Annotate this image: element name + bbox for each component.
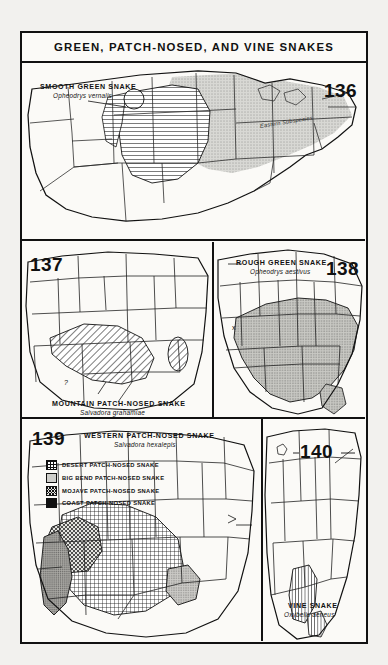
map-140-number: 140	[300, 441, 333, 463]
legend-item-mojave[interactable]: MOJAVE PATCH-NOSED SNAKE	[46, 485, 164, 496]
map-panel-137[interactable]: ? MOUNTAIN PATCH-NOSED SNAKE Salvadora g…	[22, 242, 214, 419]
map-139-common-name: WESTERN PATCH-NOSED SNAKE	[84, 432, 215, 440]
label-leader-137	[98, 382, 106, 394]
map-140-scientific-name: Oxybelis aeneus	[284, 611, 335, 618]
plate-page: GREEN, PATCH-NOSED, AND VINE SNAKES	[0, 0, 388, 665]
map-panel-139[interactable]: WESTERN PATCH-NOSED SNAKE Salvadora hexa…	[22, 419, 263, 642]
legend-label-desert: DESERT PATCH-NOSED SNAKE	[62, 462, 159, 468]
map-139-number: 139	[32, 428, 65, 450]
map-140-common-name: VINE SNAKE	[288, 602, 338, 610]
map-138-scientific-name: Opheodrys aestivus	[250, 268, 310, 275]
map-136-common-name: SMOOTH GREEN SNAKE	[40, 83, 136, 91]
legend-label-big-bend: BIG BEND PATCH-NOSED SNAKE	[62, 475, 164, 481]
legend-swatch-coast-icon	[46, 498, 57, 508]
map-139-legend: DESERT PATCH-NOSED SNAKE BIG BEND PATCH-…	[46, 460, 164, 511]
map-139-graphic	[22, 419, 263, 642]
map-137-scientific-name: Salvadora grahamiae	[80, 409, 145, 416]
plate-title-bar: GREEN, PATCH-NOSED, AND VINE SNAKES	[22, 33, 366, 63]
map-137-query-mark: ?	[64, 379, 68, 386]
range-bigbend-139	[166, 565, 200, 605]
map-138-number: 138	[326, 258, 359, 280]
legend-item-big-bend[interactable]: BIG BEND PATCH-NOSED SNAKE	[46, 472, 164, 483]
map-138-common-name: ROUGH GREEN SNAKE	[236, 259, 327, 267]
legend-swatch-mojave-icon	[46, 486, 57, 496]
map-panel-136[interactable]: SMOOTH GREEN SNAKE Opheodrys vernalis Ea…	[22, 63, 365, 241]
legend-item-desert[interactable]: DESERT PATCH-NOSED SNAKE	[46, 460, 164, 471]
legend-swatch-desert-icon	[46, 460, 57, 470]
range-hatch-isolate	[124, 89, 144, 109]
legend-label-coast: COAST PATCH-NOSED SNAKE	[62, 500, 155, 506]
map-138-x-mark: x	[232, 324, 236, 331]
map-136-scientific-name: Opheodrys vernalis	[53, 92, 112, 99]
legend-swatch-big-bend-icon	[46, 473, 57, 483]
plate-title: GREEN, PATCH-NOSED, AND VINE SNAKES	[54, 41, 334, 53]
map-137-number: 137	[30, 254, 63, 276]
state-glyph-140	[277, 444, 287, 455]
map-plate: GREEN, PATCH-NOSED, AND VINE SNAKES	[20, 31, 368, 644]
leader-arrow-139	[228, 515, 236, 523]
map-137-common-name: MOUNTAIN PATCH-NOSED SNAKE	[52, 400, 186, 408]
map-136-number: 136	[324, 80, 357, 102]
map-139-scientific-name: Salvadora hexalepis	[114, 441, 176, 448]
range-stipple-138-fl	[320, 384, 346, 414]
legend-label-mojave: MOJAVE PATCH-NOSED SNAKE	[62, 488, 159, 494]
legend-item-coast[interactable]: COAST PATCH-NOSED SNAKE	[46, 498, 164, 509]
range-hatch-137	[50, 324, 154, 384]
map-panel-140[interactable]: VINE SNAKE Oxybelis aeneus 140	[263, 419, 365, 642]
map-panel-138[interactable]: x ROUGH GREEN SNAKE Opheodrys aestivus 1…	[214, 242, 365, 419]
